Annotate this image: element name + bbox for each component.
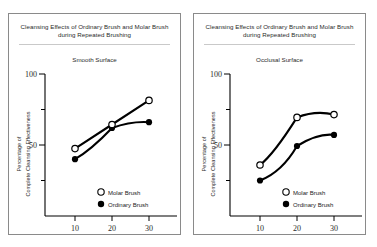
chart-panel-smooth-surface: Cleansing Effects of Ordinary Brush and … <box>8 13 181 235</box>
chart-panel-occlusal-surface: Cleansing Effects of Ordinary Brush and … <box>193 13 366 235</box>
xtick-label-20: 20 <box>108 224 116 233</box>
point-molar-10 <box>72 145 78 151</box>
ytick-label-100: 100 <box>25 70 37 79</box>
legend-marker-molar <box>283 189 289 195</box>
xtick-label-10: 10 <box>256 224 264 233</box>
legend-label-ordinary: Ordinary Brush <box>293 202 333 208</box>
xtick-label-30: 30 <box>330 224 338 233</box>
point-molar-10 <box>257 162 263 168</box>
point-ordinary-20 <box>294 143 300 149</box>
ytick-label-100: 100 <box>210 70 222 79</box>
legend-label-molar: Molar Brush <box>108 190 140 196</box>
series-line-ordinary <box>260 135 334 181</box>
y-axis-label-line1: Percentage of <box>16 136 22 171</box>
y-axis-label-line2: Complete Cleansing Effectiveness <box>25 111 31 196</box>
legend-label-ordinary: Ordinary Brush <box>108 202 148 208</box>
y-axis-label-line2: Complete Cleansing Effectiveness <box>210 111 216 196</box>
legend-marker-ordinary <box>283 201 289 207</box>
xtick-label-20: 20 <box>293 224 301 233</box>
point-ordinary-10 <box>257 177 263 183</box>
legend-marker-molar <box>98 189 104 195</box>
point-molar-30 <box>146 97 152 103</box>
plot-area-smooth: 100 50 10 20 30 Percentage of Complete C… <box>9 14 182 236</box>
point-molar-30 <box>331 111 337 117</box>
xtick-label-30: 30 <box>145 224 153 233</box>
point-molar-20 <box>109 121 115 127</box>
legend-marker-ordinary <box>98 201 104 207</box>
point-molar-20 <box>294 114 300 120</box>
plot-area-occlusal: 100 50 10 20 30 Percentage of Complete C… <box>194 14 367 236</box>
legend-label-molar: Molar Brush <box>293 190 325 196</box>
point-ordinary-30 <box>146 119 152 125</box>
point-ordinary-30 <box>331 132 337 138</box>
xtick-label-10: 10 <box>71 224 79 233</box>
point-ordinary-10 <box>72 156 78 162</box>
y-axis-label-line1: Percentage of <box>201 136 207 171</box>
figure-sheet: Cleansing Effects of Ordinary Brush and … <box>0 0 377 247</box>
